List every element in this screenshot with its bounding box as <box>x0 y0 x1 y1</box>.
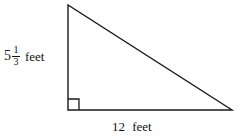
right-angle-marker-icon <box>68 99 79 110</box>
height-numerator: 1 <box>13 45 20 56</box>
height-unit-label: feet <box>25 50 44 63</box>
height-label: 5 1 3 feet <box>4 45 44 67</box>
height-denominator: 3 <box>13 57 20 68</box>
base-value: 12 <box>112 119 125 134</box>
triangle-outline <box>68 5 232 110</box>
base-label: 12 feet <box>112 120 152 133</box>
mixed-number: 5 1 3 <box>4 45 20 67</box>
base-unit-label: feet <box>132 119 151 134</box>
height-fraction: 1 3 <box>12 45 20 67</box>
right-triangle-figure: 5 1 3 feet 12 feet <box>0 0 244 139</box>
height-whole-number: 5 <box>4 49 11 63</box>
